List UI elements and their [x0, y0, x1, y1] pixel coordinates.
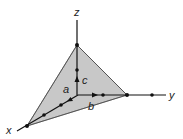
- x-lattice-point-outer: [42, 113, 46, 117]
- x-intercept-point: [25, 124, 29, 128]
- x-axis-label: x: [5, 124, 12, 136]
- z-axis-label: z: [73, 6, 80, 18]
- z-intercept-point: [75, 43, 79, 47]
- y-lattice-point-outer: [150, 93, 154, 97]
- vector-c-label: c: [82, 74, 88, 86]
- vector-a-label: a: [63, 83, 69, 95]
- y-lattice-point: [101, 93, 105, 97]
- coordinate-diagram: z y x a b c: [0, 0, 183, 139]
- y-axis-label: y: [168, 89, 176, 101]
- y-intercept-point: [125, 93, 129, 97]
- z-lattice-point: [75, 68, 79, 72]
- vector-b-label: b: [88, 100, 94, 112]
- x-lattice-point: [59, 103, 63, 107]
